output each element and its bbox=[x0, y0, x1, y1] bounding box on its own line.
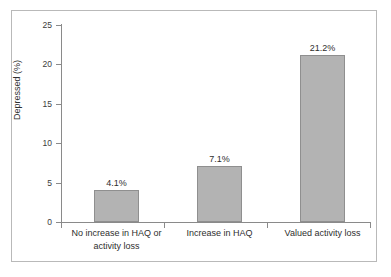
y-tick-label-15: 15 bbox=[22, 100, 52, 109]
y-tick-15 bbox=[56, 104, 61, 105]
y-tick-label-10: 10 bbox=[22, 139, 52, 148]
y-tick-label-25: 25 bbox=[22, 21, 52, 30]
y-tick-20 bbox=[56, 64, 61, 65]
bar-no-increase bbox=[94, 190, 139, 222]
y-tick-5 bbox=[56, 183, 61, 184]
figure-canvas: Depressed (%) 25 20 15 10 5 0 4.1% 7.1% … bbox=[0, 0, 391, 277]
y-tick-label-0: 0 bbox=[22, 218, 52, 227]
bar-valued-activity-loss bbox=[300, 55, 345, 222]
y-tick-25 bbox=[56, 25, 61, 26]
y-tick-label-5: 5 bbox=[22, 179, 52, 188]
x-category-label-2: Valued activity loss bbox=[261, 227, 384, 240]
bar-label-valued-activity-loss: 21.2% bbox=[292, 43, 353, 53]
bar-label-no-increase: 4.1% bbox=[86, 178, 147, 188]
x-axis-line bbox=[61, 222, 371, 223]
y-axis-line bbox=[61, 24, 62, 223]
y-axis-title: Depressed (%) bbox=[12, 40, 22, 140]
y-tick-10 bbox=[56, 143, 61, 144]
y-tick-label-20: 20 bbox=[22, 60, 52, 69]
bar-increase-haq bbox=[197, 166, 242, 222]
bar-label-increase-haq: 7.1% bbox=[189, 154, 250, 164]
